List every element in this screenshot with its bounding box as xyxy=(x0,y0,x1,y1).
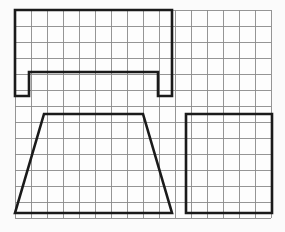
technical-drawing-canvas xyxy=(0,0,285,232)
drawing-surface xyxy=(0,0,285,232)
